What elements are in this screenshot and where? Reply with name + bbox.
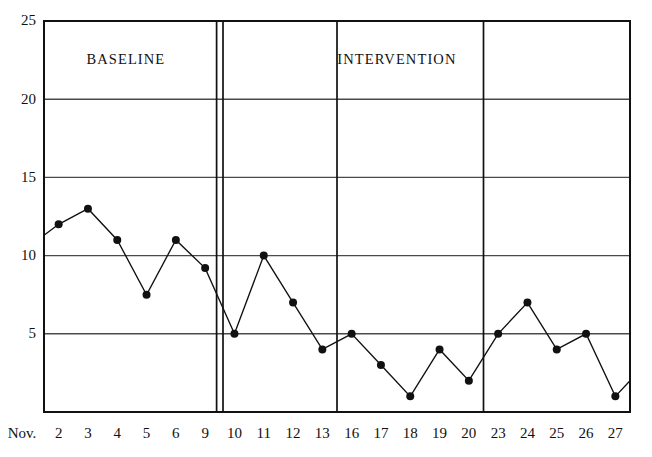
data-point-25: [553, 345, 561, 353]
x-axis-tick-labels: Nov.2345691011121316171819202324252627: [8, 425, 624, 441]
y-tick-label-5: 5: [29, 325, 37, 341]
x-tick-label-18: 18: [403, 425, 418, 441]
x-tick-label-16: 16: [344, 425, 360, 441]
data-point-11: [260, 252, 268, 260]
x-tick-label-12: 12: [286, 425, 301, 441]
x-tick-label-26: 26: [579, 425, 595, 441]
data-point-10: [230, 330, 238, 338]
phase-label-baseline: BASELINE: [86, 51, 165, 67]
data-point-16: [348, 330, 356, 338]
data-point-5: [143, 291, 151, 299]
x-tick-label-9: 9: [201, 425, 209, 441]
data-point-23: [494, 330, 502, 338]
data-point-19: [436, 345, 444, 353]
x-tick-label-27: 27: [608, 425, 624, 441]
phase-label-intervention: INTERVENTION: [337, 51, 456, 67]
data-point-20: [465, 377, 473, 385]
chart-canvas: 510152025 Nov.23456910111213161718192023…: [0, 0, 652, 457]
x-tick-label-4: 4: [114, 425, 122, 441]
data-point-4: [113, 236, 121, 244]
data-point-9: [201, 264, 209, 272]
data-point-17: [377, 361, 385, 369]
x-tick-label-23: 23: [491, 425, 506, 441]
x-tick-label-13: 13: [315, 425, 330, 441]
data-point-6: [172, 236, 180, 244]
data-point-24: [523, 299, 531, 307]
phase-labels-group: BASELINEINTERVENTION: [86, 51, 456, 67]
data-point-18: [406, 392, 414, 400]
x-axis-month-prefix: Nov.: [8, 425, 37, 441]
data-point-13: [318, 345, 326, 353]
x-tick-label-20: 20: [461, 425, 476, 441]
x-tick-label-11: 11: [257, 425, 271, 441]
x-tick-label-3: 3: [84, 425, 92, 441]
y-tick-label-20: 20: [21, 91, 36, 107]
data-point-2: [55, 220, 63, 228]
data-point-26: [582, 330, 590, 338]
x-tick-label-5: 5: [143, 425, 151, 441]
line-chart: 510152025 Nov.23456910111213161718192023…: [0, 0, 652, 457]
x-tick-label-17: 17: [373, 425, 389, 441]
x-tick-label-19: 19: [432, 425, 447, 441]
x-tick-label-25: 25: [549, 425, 564, 441]
x-tick-label-10: 10: [227, 425, 242, 441]
y-tick-label-10: 10: [21, 247, 36, 263]
data-point-3: [84, 205, 92, 213]
y-tick-label-25: 25: [21, 12, 36, 28]
data-point-27: [611, 392, 619, 400]
x-tick-label-2: 2: [55, 425, 63, 441]
y-axis-tick-labels: 510152025: [21, 12, 36, 341]
x-tick-label-24: 24: [520, 425, 536, 441]
y-tick-label-15: 15: [21, 169, 36, 185]
data-point-12: [289, 299, 297, 307]
x-tick-label-6: 6: [172, 425, 180, 441]
